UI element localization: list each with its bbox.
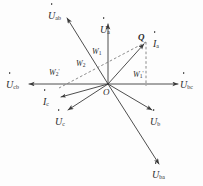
phasor-label-u-ab: Uab	[48, 6, 61, 22]
angle-label-w2: W2	[76, 60, 85, 69]
phasor-sub-u-c: c	[62, 121, 65, 127]
phasor-label-u-c: Uc	[55, 112, 65, 128]
phasor-sub-i-c: c	[46, 101, 49, 107]
angle-label-w2-prime: W2'	[49, 68, 60, 78]
angle-label-w1: W1	[92, 48, 101, 57]
point-label-q: Q	[138, 33, 145, 42]
angle-label-w1-prime: W1'	[133, 70, 144, 80]
phasor-sub-u-ba: ba	[159, 174, 165, 180]
phasor-line-u-b	[108, 84, 152, 110]
phasor-label-u-cb: Ucb	[6, 75, 19, 91]
phasor-label-i-a: Ia	[153, 34, 159, 50]
origin-label: O	[103, 88, 110, 97]
phasor-sub-u-cb: cb	[13, 84, 19, 90]
phasor-sub-u-a: a	[107, 29, 110, 35]
phasor-sub-u-bc: bc	[187, 84, 193, 90]
phasor-label-i-c: Ic	[43, 92, 49, 108]
phasor-label-u-ba: Uba	[152, 165, 165, 181]
phasor-diagram-figure: Uab Ua Q Ia Ubc Ucb Ic Uc Ub Uba O W1	[0, 0, 203, 186]
phasor-line-i-c	[61, 84, 108, 97]
phasor-sub-i-a: a	[156, 43, 159, 49]
phasor-line-u-c	[68, 84, 108, 110]
phasor-sub-u-ab: ab	[55, 15, 61, 21]
phasor-label-u-bc: Ubc	[180, 75, 193, 91]
guide-qo-dashed	[59, 42, 146, 88]
phasor-label-u-a: Ua	[100, 20, 110, 36]
phasor-sub-u-b: b	[157, 121, 160, 127]
phasor-label-u-b: Ub	[150, 112, 160, 128]
